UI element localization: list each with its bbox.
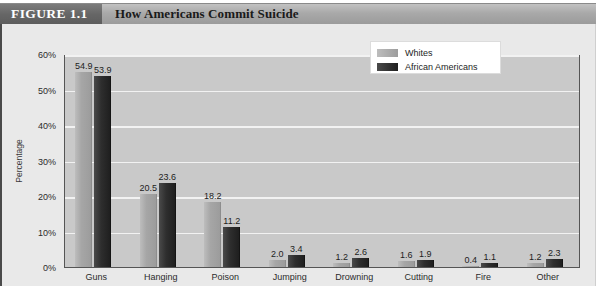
- bar: [159, 183, 176, 267]
- bar-value-label: 1.1: [475, 252, 504, 262]
- chart-legend: WhitesAfrican Americans: [370, 41, 501, 74]
- bar-series-container: 54.953.920.523.618.211.22.03.41.22.61.61…: [65, 56, 579, 267]
- figure-title-bar: FIGURE 1.1 How Americans Commit Suicide: [0, 3, 596, 24]
- bar: [288, 255, 305, 267]
- bar-value-label: 2.3: [540, 248, 569, 258]
- bar: [223, 227, 240, 267]
- bar: [204, 202, 221, 267]
- chart-frame: Percentage 0%10%20%30%40%50%60% 54.953.9…: [0, 24, 596, 286]
- bar: [94, 76, 111, 267]
- legend-label: African Americans: [405, 62, 478, 72]
- bar: [546, 259, 563, 267]
- bar: [527, 263, 544, 267]
- figure-number-tag: FIGURE 1.1: [0, 4, 102, 25]
- x-axis-tick-label: Poison: [193, 272, 258, 282]
- bar: [352, 258, 369, 267]
- y-axis-tick-label: 60%: [38, 50, 56, 60]
- y-axis-tick-label: 50%: [38, 86, 56, 96]
- y-axis-tick-label: 10%: [38, 228, 56, 238]
- x-axis-tick-label: Other: [516, 272, 581, 282]
- legend-swatch: [377, 49, 398, 57]
- bar: [140, 194, 157, 267]
- bar: [462, 266, 479, 267]
- y-axis-tick-label: 30%: [38, 157, 56, 167]
- legend-item: African Americans: [377, 60, 500, 73]
- y-axis-tick-label: 20%: [38, 192, 56, 202]
- bar-value-label: 18.2: [198, 191, 227, 201]
- legend-label: Whites: [405, 48, 433, 58]
- bar: [333, 263, 350, 267]
- bar-value-label: 53.9: [88, 65, 117, 75]
- bar: [398, 261, 415, 267]
- bar: [75, 72, 92, 267]
- bar-value-label: 11.2: [217, 216, 246, 226]
- bar-value-label: 2.6: [346, 247, 375, 257]
- y-axis-tick-label: 40%: [38, 121, 56, 131]
- y-axis-tick-labels: 0%10%20%30%40%50%60%: [16, 55, 60, 268]
- bar: [481, 263, 498, 267]
- y-axis-tick-label: 0%: [43, 263, 56, 273]
- legend-item: Whites: [377, 46, 500, 59]
- x-axis-tick-label: Guns: [64, 272, 129, 282]
- x-axis-tick-labels: GunsHangingPoisonJumpingDrowningCuttingF…: [64, 269, 580, 289]
- bar-value-label: 23.6: [153, 172, 182, 182]
- x-axis-tick-label: Jumping: [258, 272, 323, 282]
- x-axis-tick-label: Cutting: [387, 272, 452, 282]
- x-axis-tick-label: Fire: [451, 272, 516, 282]
- figure-title: How Americans Commit Suicide: [102, 6, 299, 22]
- figure-container: FIGURE 1.1 How Americans Commit Suicide …: [0, 0, 596, 301]
- x-axis-tick-label: Hanging: [129, 272, 194, 282]
- bar: [269, 260, 286, 267]
- legend-swatch: [377, 63, 398, 71]
- bar: [417, 260, 434, 267]
- plot-area: 54.953.920.523.618.211.22.03.41.22.61.61…: [64, 55, 580, 268]
- bar-value-label: 1.9: [411, 249, 440, 259]
- bar-value-label: 3.4: [282, 244, 311, 254]
- x-axis-tick-label: Drowning: [322, 272, 387, 282]
